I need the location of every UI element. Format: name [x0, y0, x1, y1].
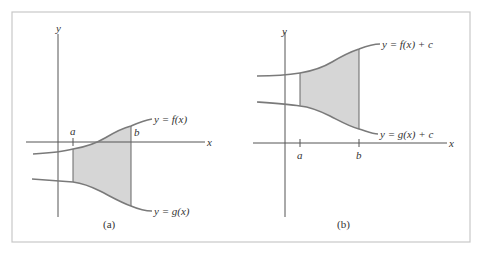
x-axis-label-b: x [448, 137, 454, 149]
y-axis-label-b: y [281, 25, 287, 37]
tick-label-a-a: a [70, 125, 76, 137]
curve-label-g-plus-c: y = g(x) + c [379, 128, 433, 141]
figure: y x a b y = f(x) y = g(x) (a) y x a b y … [0, 0, 481, 253]
tick-label-b-b: b [356, 149, 362, 161]
tick-label-b-a: b [134, 126, 140, 138]
curve-label-f-a: y = f(x) [153, 113, 187, 126]
curve-label-f-plus-c: y = f(x) + c [381, 38, 433, 51]
curve-label-g-a: y = g(x) [153, 205, 190, 218]
x-axis-label-a: x [206, 136, 212, 148]
caption-a: (a) [103, 218, 116, 231]
tick-label-a-b: a [297, 149, 303, 161]
caption-b: (b) [337, 218, 350, 231]
y-axis-label-a: y [55, 22, 61, 34]
